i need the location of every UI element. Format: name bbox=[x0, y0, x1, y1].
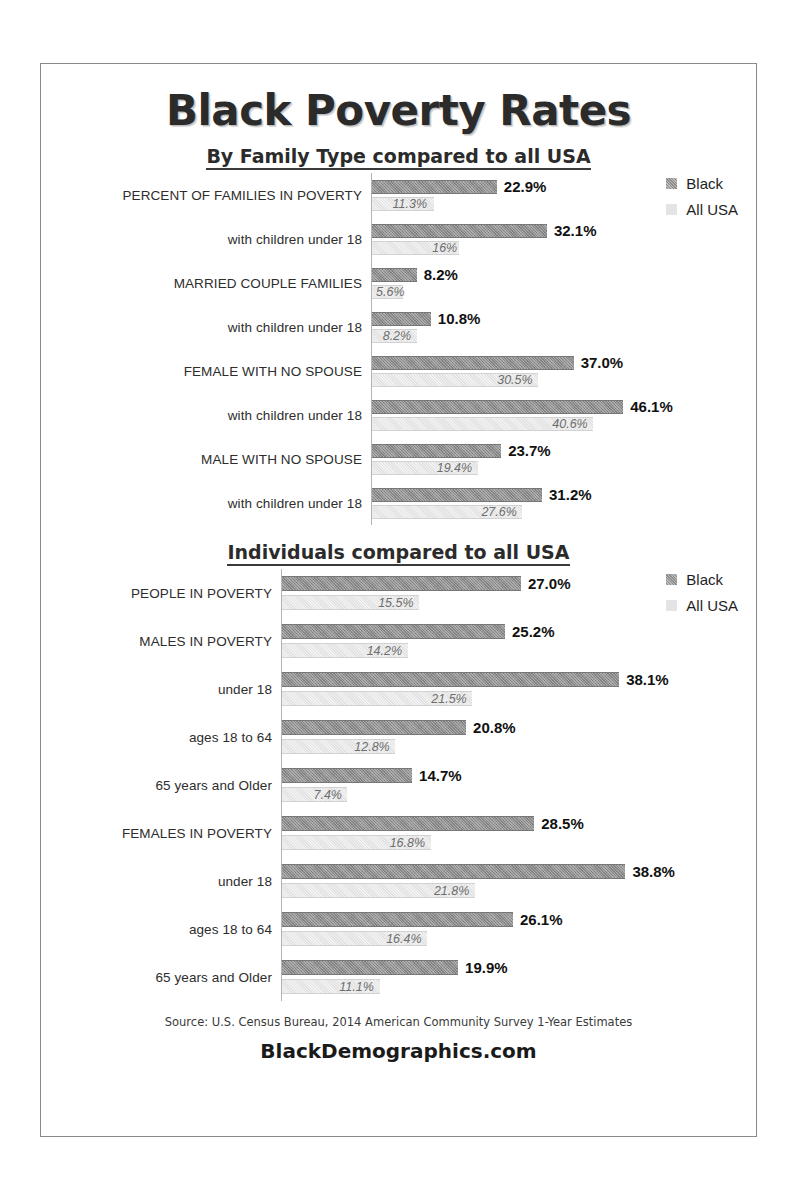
bar-line-black: 10.8% bbox=[372, 312, 756, 326]
bar-line-black: 22.9% bbox=[372, 180, 756, 194]
chart-family-type: Black All USA PERCENT OF FAMILIES IN POV… bbox=[41, 173, 756, 525]
category-label: with children under 18 bbox=[41, 305, 371, 349]
bar-group: 46.1%40.6% bbox=[371, 393, 756, 437]
category-label: under 18 bbox=[41, 665, 281, 713]
bar-line-allusa: 5.6% bbox=[372, 285, 756, 299]
bar-black bbox=[372, 488, 542, 502]
chart-row: with children under 1831.2%27.6% bbox=[41, 481, 756, 525]
bar-black bbox=[372, 268, 417, 282]
bar-value-allusa: 21.8% bbox=[434, 884, 469, 898]
bar-line-black: 28.5% bbox=[282, 816, 756, 831]
category-label: under 18 bbox=[41, 857, 281, 905]
bar-value-black: 46.1% bbox=[630, 398, 673, 415]
bar-line-allusa: 11.3% bbox=[372, 197, 756, 211]
chart-row: PERCENT OF FAMILIES IN POVERTY22.9%11.3% bbox=[41, 173, 756, 217]
category-label: MALE WITH NO SPOUSE bbox=[41, 437, 371, 481]
bar-value-black: 28.5% bbox=[541, 815, 584, 832]
bar-group: 38.8%21.8% bbox=[281, 857, 756, 905]
bar-value-allusa: 12.8% bbox=[354, 740, 389, 754]
bar-line-black: 38.8% bbox=[282, 864, 756, 879]
bar-black bbox=[372, 356, 574, 370]
bar-group: 8.2%5.6% bbox=[371, 261, 756, 305]
bar-value-black: 32.1% bbox=[554, 222, 597, 239]
bar-group: 28.5%16.8% bbox=[281, 809, 756, 857]
bar-value-black: 14.7% bbox=[419, 767, 462, 784]
bar-value-allusa: 21.5% bbox=[431, 692, 466, 706]
bar-line-black: 23.7% bbox=[372, 444, 756, 458]
bar-value-black: 8.2% bbox=[424, 266, 458, 283]
section-title-individuals: Individuals compared to all USA bbox=[41, 541, 756, 563]
category-label: ages 18 to 64 bbox=[41, 905, 281, 953]
category-label: with children under 18 bbox=[41, 481, 371, 525]
bar-value-allusa: 11.1% bbox=[339, 980, 374, 994]
bar-group: 19.9%11.1% bbox=[281, 953, 756, 1001]
chart-row: 65 years and Older14.7%7.4% bbox=[41, 761, 756, 809]
chart-row: ages 18 to 6420.8%12.8% bbox=[41, 713, 756, 761]
bar-black bbox=[372, 312, 431, 326]
section-title-individuals-text: Individuals compared to all USA bbox=[227, 541, 569, 566]
bar-group: 10.8%8.2% bbox=[371, 305, 756, 349]
bar-line-allusa: 21.8% bbox=[282, 883, 756, 898]
bar-value-black: 37.0% bbox=[581, 354, 624, 371]
bar-black bbox=[282, 960, 458, 975]
bar-line-black: 25.2% bbox=[282, 624, 756, 639]
bar-value-allusa: 30.5% bbox=[497, 373, 532, 387]
chart-row: MALE WITH NO SPOUSE23.7%19.4% bbox=[41, 437, 756, 481]
category-label: with children under 18 bbox=[41, 217, 371, 261]
bar-black bbox=[282, 864, 625, 879]
bar-black bbox=[282, 672, 619, 687]
bar-line-allusa: 16% bbox=[372, 241, 756, 255]
chart-row: with children under 1810.8%8.2% bbox=[41, 305, 756, 349]
category-label: 65 years and Older bbox=[41, 953, 281, 1001]
chart-row: under 1838.1%21.5% bbox=[41, 665, 756, 713]
bar-black bbox=[372, 180, 497, 194]
chart-row: 65 years and Older19.9%11.1% bbox=[41, 953, 756, 1001]
bar-line-black: 46.1% bbox=[372, 400, 756, 414]
chart-row: with children under 1832.1%16% bbox=[41, 217, 756, 261]
category-label: ages 18 to 64 bbox=[41, 713, 281, 761]
bar-black bbox=[282, 720, 466, 735]
bar-black bbox=[372, 444, 501, 458]
bar-black bbox=[372, 400, 623, 414]
bar-line-allusa: 16.8% bbox=[282, 835, 756, 850]
chart-row: under 1838.8%21.8% bbox=[41, 857, 756, 905]
chart-row: ages 18 to 6426.1%16.4% bbox=[41, 905, 756, 953]
bar-line-black: 8.2% bbox=[372, 268, 756, 282]
bar-line-allusa: 14.2% bbox=[282, 643, 756, 658]
bar-black bbox=[282, 576, 521, 591]
bar-value-allusa: 14.2% bbox=[367, 644, 402, 658]
category-label: FEMALE WITH NO SPOUSE bbox=[41, 349, 371, 393]
bar-value-black: 22.9% bbox=[504, 178, 547, 195]
infographic-poster: Black Poverty Rates By Family Type compa… bbox=[40, 63, 757, 1137]
bar-group: 23.7%19.4% bbox=[371, 437, 756, 481]
chart-row: PEOPLE IN POVERTY27.0%15.5% bbox=[41, 569, 756, 617]
bar-group: 38.1%21.5% bbox=[281, 665, 756, 713]
bar-group: 32.1%16% bbox=[371, 217, 756, 261]
bar-value-black: 27.0% bbox=[528, 575, 571, 592]
bar-group: 14.7%7.4% bbox=[281, 761, 756, 809]
bar-value-black: 25.2% bbox=[512, 623, 555, 640]
chart-row: FEMALES IN POVERTY28.5%16.8% bbox=[41, 809, 756, 857]
bar-line-allusa: 27.6% bbox=[372, 505, 756, 519]
bar-line-black: 26.1% bbox=[282, 912, 756, 927]
category-label: MALES IN POVERTY bbox=[41, 617, 281, 665]
category-label: FEMALES IN POVERTY bbox=[41, 809, 281, 857]
bar-line-allusa: 15.5% bbox=[282, 595, 756, 610]
bar-value-black: 23.7% bbox=[508, 442, 551, 459]
bar-group: 26.1%16.4% bbox=[281, 905, 756, 953]
bar-group: 37.0%30.5% bbox=[371, 349, 756, 393]
bar-value-black: 20.8% bbox=[473, 719, 516, 736]
bar-black bbox=[282, 816, 534, 831]
chart-rows-individuals: PEOPLE IN POVERTY27.0%15.5%MALES IN POVE… bbox=[41, 569, 756, 1001]
bar-line-black: 19.9% bbox=[282, 960, 756, 975]
bar-value-allusa: 11.3% bbox=[393, 197, 428, 211]
bar-value-allusa: 8.2% bbox=[383, 329, 412, 343]
bar-black bbox=[282, 768, 412, 783]
chart-row: MARRIED COUPLE FAMILIES8.2%5.6% bbox=[41, 261, 756, 305]
bar-line-allusa: 12.8% bbox=[282, 739, 756, 754]
bar-value-allusa: 27.6% bbox=[481, 505, 516, 519]
bar-line-allusa: 16.4% bbox=[282, 931, 756, 946]
bar-value-allusa: 19.4% bbox=[437, 461, 472, 475]
bar-value-black: 38.8% bbox=[632, 863, 675, 880]
chart-individuals: Black All USA PEOPLE IN POVERTY27.0%15.5… bbox=[41, 569, 756, 1001]
